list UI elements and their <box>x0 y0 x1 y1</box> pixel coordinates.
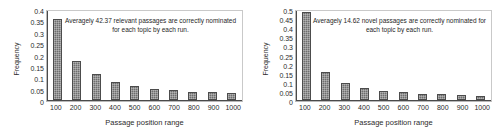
figure-two-panel-bar-charts: Frequency 00.050.10.150.20.250.30.350.4 … <box>0 0 498 140</box>
bar-900 <box>457 95 466 100</box>
x-tick-right-8: 900 <box>453 104 473 111</box>
bar-1000 <box>476 96 485 101</box>
x-axis-line-right <box>296 100 491 101</box>
bar-slot <box>67 12 86 100</box>
bar-300 <box>92 74 101 100</box>
bar-500 <box>130 86 139 100</box>
bar-slot <box>393 12 412 100</box>
bar-600 <box>150 89 159 100</box>
y-tick-right-6: 0.3 <box>283 44 293 51</box>
x-tick-right-6: 700 <box>413 104 433 111</box>
x-tick-left-2: 300 <box>85 104 105 111</box>
bar-700 <box>418 94 427 100</box>
bar-900 <box>208 92 217 100</box>
y-tick-left-6: 0.3 <box>34 30 44 37</box>
bar-800 <box>188 92 197 100</box>
y-tick-left-4: 0.2 <box>34 53 44 60</box>
y-tick-right-1: 0.05 <box>279 89 293 96</box>
y-tick-right-8: 0.4 <box>283 26 293 33</box>
y-tick-right-3: 0.15 <box>279 71 293 78</box>
x-tick-left-0: 100 <box>46 104 66 111</box>
y-tick-right-7: 0.35 <box>279 35 293 42</box>
bar-slot <box>125 12 144 100</box>
y-tick-right-4: 0.2 <box>283 62 293 69</box>
x-tick-right-0: 100 <box>295 104 315 111</box>
plot-area-left: Averagely 42.37 relevant passages are co… <box>46 10 243 102</box>
x-tick-right-4: 500 <box>374 104 394 111</box>
x-tick-right-9: 1000 <box>472 104 492 111</box>
bar-700 <box>169 90 178 100</box>
y-tick-labels-right: 00.050.10.150.20.250.30.350.40.450.5 <box>271 10 293 102</box>
bar-400 <box>111 82 120 100</box>
bar-slot <box>183 12 202 100</box>
y-tick-right-9: 0.45 <box>279 17 293 24</box>
bar-200 <box>72 61 81 100</box>
bar-slot <box>164 12 183 100</box>
bar-slot <box>48 12 67 100</box>
bar-slot <box>87 12 106 100</box>
x-tick-left-1: 200 <box>66 104 86 111</box>
x-tick-right-5: 600 <box>394 104 414 111</box>
y-tick-left-2: 0.1 <box>34 76 44 83</box>
x-tick-left-4: 500 <box>125 104 145 111</box>
y-tick-right-10: 0.5 <box>283 8 293 15</box>
bar-200 <box>321 72 330 100</box>
bar-100 <box>302 12 311 100</box>
y-tick-left-1: 0.05 <box>30 87 44 94</box>
x-tick-left-3: 400 <box>105 104 125 111</box>
x-tick-labels-left: 1002003004005006007008009001000 <box>46 104 243 111</box>
bar-slot <box>374 12 393 100</box>
bar-100 <box>53 19 62 100</box>
bar-slot <box>471 12 490 100</box>
bar-slot <box>144 12 163 100</box>
y-tick-left-7: 0.35 <box>30 19 44 26</box>
y-axis-label-right: Frequency <box>262 28 269 90</box>
bar-slot <box>316 12 335 100</box>
bar-slot <box>202 12 221 100</box>
y-tick-labels-left: 00.050.10.150.20.250.30.350.4 <box>22 10 44 102</box>
plot-area-right: Averagely 14.62 novel passages are corre… <box>295 10 492 102</box>
bar-series-right <box>297 12 490 100</box>
x-tick-right-3: 400 <box>354 104 374 111</box>
bar-slot <box>336 12 355 100</box>
bar-slot <box>297 12 316 100</box>
chart-panel-left: Frequency 00.050.10.150.20.250.30.350.4 … <box>0 0 249 140</box>
bar-500 <box>379 91 388 100</box>
x-tick-left-7: 800 <box>184 104 204 111</box>
y-tick-right-2: 0.1 <box>283 80 293 87</box>
bar-1000 <box>227 93 236 100</box>
bar-slot <box>432 12 451 100</box>
x-axis-label-left: Passage position range <box>46 118 243 127</box>
x-tick-right-2: 300 <box>334 104 354 111</box>
bar-slot <box>355 12 374 100</box>
y-tick-left-0: 0 <box>40 99 44 106</box>
x-tick-left-5: 600 <box>145 104 165 111</box>
x-axis-line-left <box>47 100 242 101</box>
bar-600 <box>399 92 408 100</box>
chart-panel-right: Frequency 00.050.10.150.20.250.30.350.40… <box>249 0 498 140</box>
y-axis-label-left: Frequency <box>13 28 20 90</box>
x-tick-left-6: 700 <box>164 104 184 111</box>
bar-slot <box>106 12 125 100</box>
x-tick-right-7: 800 <box>433 104 453 111</box>
x-tick-left-8: 900 <box>204 104 224 111</box>
bar-series-left <box>48 12 241 100</box>
bar-800 <box>437 94 446 100</box>
y-tick-left-3: 0.15 <box>30 64 44 71</box>
y-tick-left-5: 0.25 <box>30 42 44 49</box>
x-tick-left-9: 1000 <box>223 104 243 111</box>
bar-300 <box>341 83 350 100</box>
bar-slot <box>451 12 470 100</box>
bar-slot <box>413 12 432 100</box>
y-tick-right-0: 0 <box>289 99 293 106</box>
x-axis-label-right: Passage position range <box>295 118 492 127</box>
bar-slot <box>222 12 241 100</box>
y-tick-right-5: 0.25 <box>279 53 293 60</box>
x-tick-labels-right: 1002003004005006007008009001000 <box>295 104 492 111</box>
x-tick-right-1: 200 <box>315 104 335 111</box>
bar-400 <box>360 88 369 100</box>
y-tick-left-8: 0.4 <box>34 8 44 15</box>
